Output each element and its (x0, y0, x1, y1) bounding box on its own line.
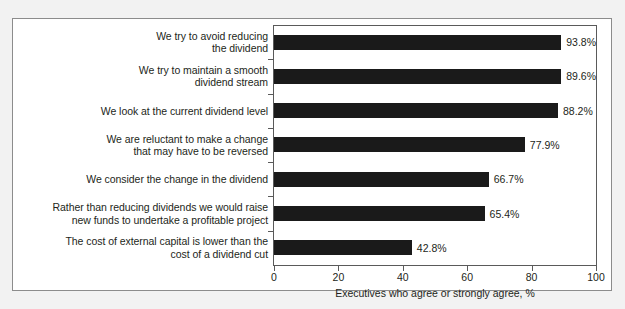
bar-row[interactable]: Rather than reducing dividends we would … (13, 196, 613, 230)
category-label-line: dividend stream (18, 76, 268, 88)
category-label: We look at the current dividend level (18, 105, 268, 117)
category-label-line: cost of a dividend cut (18, 248, 268, 260)
bar-track: 89.6% (274, 59, 596, 93)
bar-value-label: 77.9% (530, 139, 560, 151)
category-label-line: We consider the change in the dividend (18, 173, 268, 185)
bar[interactable] (274, 69, 561, 84)
bar-chart: We try to avoid reducing the dividend 93… (13, 19, 613, 292)
bar-track: 42.8% (274, 231, 596, 265)
bar-value-label: 93.8% (566, 36, 596, 48)
category-label-line: new funds to undertake a profitable proj… (18, 214, 268, 226)
bar[interactable] (274, 35, 561, 50)
bar[interactable] (274, 172, 489, 187)
bar-value-label: 89.6% (566, 70, 596, 82)
bar-rows: We try to avoid reducing the dividend 93… (13, 25, 613, 265)
bar-row[interactable]: We try to maintain a smooth dividend str… (13, 59, 613, 93)
category-label-line: We try to avoid reducing (18, 30, 268, 42)
category-label: We are reluctant to make a change that m… (18, 133, 268, 158)
category-label-line: We look at the current dividend level (18, 105, 268, 117)
category-label-line: that may have to be reversed (18, 145, 268, 157)
x-axis-title: Executives who agree or strongly agree, … (273, 275, 597, 299)
bar-value-label: 42.8% (417, 242, 447, 254)
bar-value-label: 65.4% (490, 208, 520, 220)
category-label: Rather than reducing dividends we would … (18, 201, 268, 226)
bar[interactable] (274, 137, 525, 152)
category-label-line: We try to maintain a smooth (18, 64, 268, 76)
category-label: We try to maintain a smooth dividend str… (18, 64, 268, 89)
category-label: We consider the change in the dividend (18, 173, 268, 185)
bar-track: 88.2% (274, 94, 596, 128)
category-label-line: We are reluctant to make a change (18, 133, 268, 145)
bar-row[interactable]: We consider the change in the dividend 6… (13, 162, 613, 196)
category-label: We try to avoid reducing the dividend (18, 30, 268, 55)
bar[interactable] (274, 103, 558, 118)
bar-track: 77.9% (274, 128, 596, 162)
bar[interactable] (274, 206, 485, 221)
bar-row[interactable]: We try to avoid reducing the dividend 93… (13, 25, 613, 59)
bar-value-label: 88.2% (563, 105, 593, 117)
category-label-line: the dividend (18, 42, 268, 54)
bar-track: 66.7% (274, 162, 596, 196)
bar-row[interactable]: The cost of external capital is lower th… (13, 231, 613, 265)
bar-track: 93.8% (274, 25, 596, 59)
figure-frame: We try to avoid reducing the dividend 93… (12, 18, 612, 291)
bar-row[interactable]: We are reluctant to make a change that m… (13, 128, 613, 162)
bar[interactable] (274, 240, 412, 255)
category-label: The cost of external capital is lower th… (18, 235, 268, 260)
bar-value-label: 66.7% (494, 173, 524, 185)
category-label-line: The cost of external capital is lower th… (18, 235, 268, 247)
category-label-line: Rather than reducing dividends we would … (18, 201, 268, 213)
bar-track: 65.4% (274, 196, 596, 230)
bar-row[interactable]: We look at the current dividend level 88… (13, 94, 613, 128)
figure-page: We try to avoid reducing the dividend 93… (0, 0, 625, 309)
